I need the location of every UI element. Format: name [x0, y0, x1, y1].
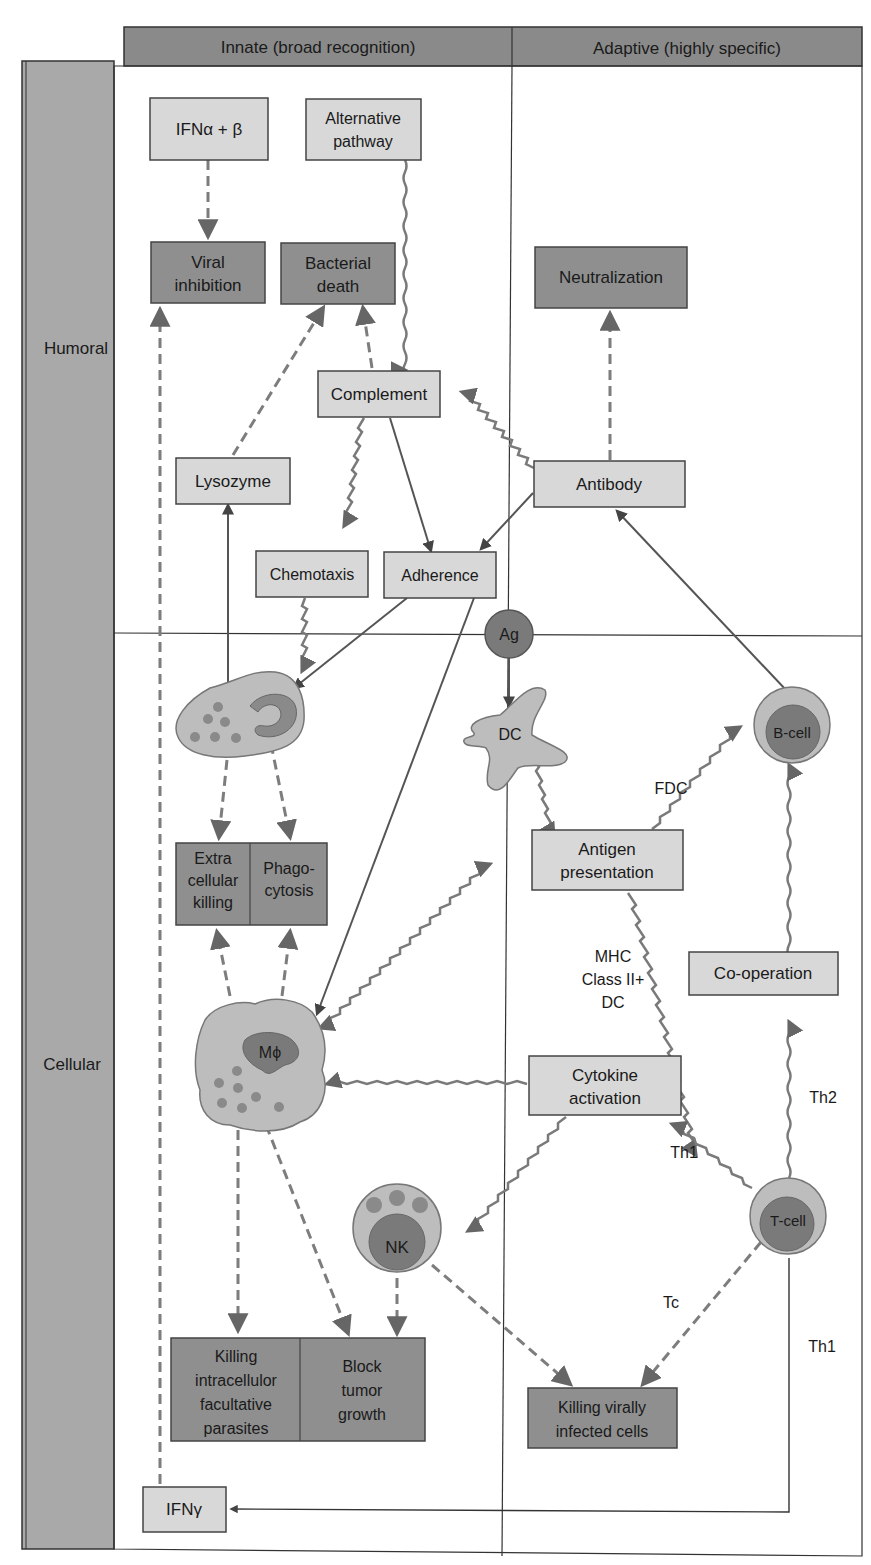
svg-text:facultative: facultative	[200, 1396, 272, 1413]
header-adaptive: Adaptive (highly specific)	[593, 39, 781, 58]
svg-text:death: death	[317, 277, 360, 296]
svg-text:parasites: parasites	[204, 1420, 269, 1437]
svg-text:Killing: Killing	[215, 1348, 258, 1365]
svg-text:Alternative: Alternative	[325, 110, 401, 127]
edge-label-th2: Th2	[809, 1089, 837, 1106]
node-bacterial-death: Bacterial death	[281, 243, 395, 304]
svg-text:intracellulor: intracellulor	[195, 1372, 277, 1389]
svg-text:Lysozyme: Lysozyme	[195, 472, 271, 491]
node-adherence: Adherence	[384, 552, 496, 598]
svg-text:B-cell: B-cell	[773, 724, 811, 741]
svg-text:presentation: presentation	[560, 863, 654, 882]
svg-text:growth: growth	[338, 1406, 386, 1423]
svg-text:IFNα + β: IFNα + β	[176, 120, 243, 139]
edge-label-mhc-line3: DC	[601, 994, 624, 1011]
node-killing-intracellular-block-tumor: Killing intracellulor facultative parasi…	[171, 1338, 425, 1441]
node-killing-virally-infected-cells: Killing virally infected cells	[528, 1388, 677, 1448]
header-innate: Innate (broad recognition)	[221, 38, 416, 57]
neutrophil-cell-icon	[176, 672, 304, 758]
node-lysozyme: Lysozyme	[176, 458, 290, 504]
node-ifn-alpha-beta: IFNα + β	[150, 98, 268, 160]
svg-text:activation: activation	[569, 1089, 641, 1108]
svg-text:DC: DC	[498, 726, 521, 743]
row-header-bar	[22, 61, 114, 1549]
edge-label-tc: Tc	[663, 1294, 679, 1311]
svg-text:Bacterial: Bacterial	[305, 254, 371, 273]
t-cell-icon: T-cell	[750, 1178, 826, 1254]
svg-text:NK: NK	[385, 1238, 409, 1257]
svg-text:Phago-: Phago-	[263, 860, 315, 877]
node-antigen: Ag	[485, 610, 533, 658]
dendritic-cell-icon: DC	[464, 688, 567, 790]
svg-text:inhibition: inhibition	[174, 276, 241, 295]
svg-text:pathway: pathway	[333, 133, 393, 150]
edge-label-mhc-line1: MHC	[595, 948, 631, 965]
node-alternative-pathway: Alternative pathway	[306, 99, 421, 160]
immune-system-diagram: Innate (broad recognition) Adaptive (hig…	[0, 0, 871, 1565]
edge-label-mhc-line2: Class II+	[582, 971, 645, 988]
edge-label-fdc: FDC	[655, 780, 688, 797]
svg-text:Extra: Extra	[194, 850, 231, 867]
edge-label-th1-cytokine: Th1	[670, 1144, 698, 1161]
node-neutralization: Neutralization	[535, 247, 687, 308]
svg-text:Ag: Ag	[499, 626, 519, 643]
node-antigen-presentation: Antigen presentation	[532, 830, 683, 890]
svg-text:Viral: Viral	[191, 253, 225, 272]
macrophage-cell-icon: Mϕ	[195, 999, 325, 1131]
svg-text:Neutralization: Neutralization	[559, 268, 663, 287]
svg-text:Killing virally: Killing virally	[558, 1399, 646, 1416]
edge-label-th1-ifn: Th1	[808, 1338, 836, 1355]
node-ifn-gamma: IFNγ	[143, 1487, 226, 1532]
node-co-operation: Co-operation	[689, 952, 838, 995]
svg-text:T-cell: T-cell	[770, 1212, 806, 1229]
node-viral-inhibition: Viral inhibition	[151, 242, 265, 303]
node-complement: Complement	[318, 371, 440, 417]
node-chemotaxis: Chemotaxis	[256, 551, 368, 597]
svg-text:Adherence: Adherence	[401, 567, 478, 584]
svg-text:cellular: cellular	[188, 872, 239, 889]
svg-text:killing: killing	[193, 894, 233, 911]
row-cellular: Cellular	[43, 1055, 101, 1074]
svg-text:Antigen: Antigen	[578, 840, 636, 859]
b-cell-icon: B-cell	[754, 687, 830, 763]
svg-text:Co-operation: Co-operation	[714, 964, 812, 983]
svg-text:tumor: tumor	[342, 1382, 384, 1399]
svg-text:cytosis: cytosis	[265, 882, 314, 899]
node-antibody: Antibody	[534, 461, 685, 507]
node-cytokine-activation: Cytokine activation	[529, 1056, 681, 1115]
svg-text:IFNγ: IFNγ	[166, 1500, 202, 1519]
svg-text:Cytokine: Cytokine	[572, 1066, 638, 1085]
nk-cell-icon: NK	[353, 1184, 441, 1272]
row-humoral: Humoral	[44, 339, 108, 358]
svg-text:Chemotaxis: Chemotaxis	[270, 566, 354, 583]
svg-text:Block: Block	[342, 1358, 382, 1375]
svg-text:Mϕ: Mϕ	[259, 1044, 281, 1061]
svg-text:infected cells: infected cells	[556, 1423, 649, 1440]
svg-text:Complement: Complement	[331, 385, 428, 404]
svg-text:Antibody: Antibody	[576, 475, 643, 494]
node-extracellular-killing-phagocytosis: Extra cellular killing Phago- cytosis	[176, 843, 327, 925]
